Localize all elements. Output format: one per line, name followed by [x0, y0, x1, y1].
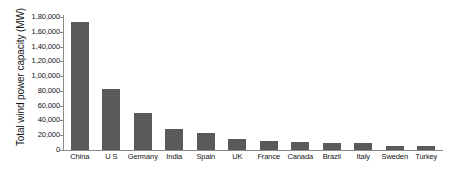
y-tick-label: 60,000	[2, 102, 60, 110]
y-tick-label: 1,40,000	[2, 43, 60, 51]
y-tick-label: 80,000	[2, 87, 60, 95]
bar-slot	[291, 17, 309, 150]
bar-slot	[134, 17, 152, 150]
x-tick-label: Spain	[190, 152, 222, 162]
bar	[417, 146, 435, 150]
bar	[197, 133, 215, 150]
bar	[134, 113, 152, 150]
bar	[165, 129, 183, 150]
bar-slot	[417, 17, 435, 150]
bar	[386, 146, 404, 150]
bar-slot	[102, 17, 120, 150]
bar-slot	[228, 17, 246, 150]
x-axis-tick-labels: ChinaU SGermanyIndiaSpainUKFranceCanadaB…	[64, 152, 442, 166]
plot-area	[64, 17, 442, 150]
x-tick-label: Brazil	[316, 152, 348, 162]
wind-power-capacity-bar-chart: Total wind power capacity (MW) 1,80,0001…	[0, 0, 450, 175]
y-tick-label: 20,000	[2, 131, 60, 139]
y-tick-label: 1,00,000	[2, 72, 60, 80]
bar-slot	[260, 17, 278, 150]
bar-slot	[386, 17, 404, 150]
y-tick-label: 40,000	[2, 116, 60, 124]
bar	[323, 143, 341, 150]
x-tick-label: Germany	[127, 152, 159, 162]
bar	[228, 139, 246, 150]
x-tick-label: UK	[222, 152, 254, 162]
bar-slot	[71, 17, 89, 150]
x-tick-label: Canada	[285, 152, 317, 162]
y-tick-label: 1,60,000	[2, 28, 60, 36]
y-tick-label: 1,20,000	[2, 57, 60, 65]
x-tick-label: U S	[96, 152, 128, 162]
bar-slot	[197, 17, 215, 150]
y-tick-label: 0	[2, 146, 60, 154]
clipped-bottom-artifact	[0, 171, 450, 175]
x-tick-label: India	[159, 152, 191, 162]
bar	[102, 89, 120, 150]
y-axis-tick-labels: 1,80,0001,60,0001,40,0001,20,0001,00,000…	[0, 0, 60, 175]
y-tick-label: 1,80,000	[2, 13, 60, 21]
bar	[71, 22, 89, 150]
x-tick-label: Italy	[348, 152, 380, 162]
x-axis-line	[63, 150, 443, 151]
x-tick-label: Sweden	[379, 152, 411, 162]
bar	[291, 142, 309, 150]
bar-slot	[165, 17, 183, 150]
bar-slot	[354, 17, 372, 150]
bar-slot	[323, 17, 341, 150]
x-tick-label: France	[253, 152, 285, 162]
x-tick-label: Turkey	[411, 152, 443, 162]
bar	[260, 141, 278, 150]
bar	[354, 143, 372, 150]
x-tick-label: China	[64, 152, 96, 162]
